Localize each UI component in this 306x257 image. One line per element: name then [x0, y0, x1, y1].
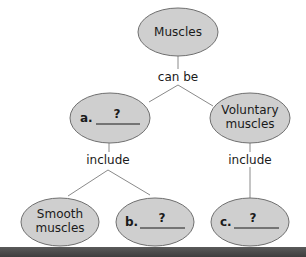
node-voluntary-muscles: Voluntary muscles	[210, 93, 290, 143]
node-c-question: ?	[250, 211, 257, 225]
node-voluntary-line2: muscles	[225, 117, 274, 131]
node-c-blank: c. ?	[211, 198, 289, 246]
node-a-prefix: a.	[80, 111, 93, 125]
node-b-prefix: b.	[125, 215, 138, 229]
node-c-prefix: c.	[220, 215, 232, 229]
link-label-include-left: include	[86, 153, 129, 167]
link-label-can-be: can be	[158, 70, 198, 84]
concept-map-svg: Muscles can be a. ? Voluntary muscles in…	[0, 0, 306, 257]
node-smooth-line2: muscles	[35, 221, 84, 235]
line-canbe-voluntary	[178, 85, 213, 106]
node-smooth-line1: Smooth	[37, 207, 83, 221]
node-b-question: ?	[159, 211, 166, 225]
node-a-question: ?	[114, 107, 121, 121]
line-canbe-a	[149, 85, 178, 102]
line-include-b	[108, 170, 150, 195]
bottom-bar	[0, 247, 306, 257]
node-a-blank: a. ?	[70, 93, 150, 143]
node-smooth-muscles: Smooth muscles	[21, 198, 99, 246]
node-muscles-label: Muscles	[154, 25, 202, 39]
link-label-include-right: include	[228, 153, 271, 167]
node-muscles: Muscles	[138, 8, 218, 56]
concept-map: Muscles can be a. ? Voluntary muscles in…	[0, 0, 306, 257]
line-include-smooth	[68, 170, 108, 196]
node-b-blank: b. ?	[116, 198, 194, 246]
node-voluntary-line1: Voluntary	[221, 103, 278, 117]
